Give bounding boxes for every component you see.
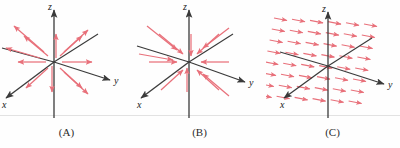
panel-b-diagram: z y x xyxy=(133,0,266,120)
vector-field-figure: z y x (A) xyxy=(0,0,400,148)
panel-c-diagram: z y x xyxy=(266,0,400,120)
x-axis-label: x xyxy=(136,99,142,110)
x-axis-label: x xyxy=(279,99,285,110)
panel-c-caption: (C) xyxy=(266,126,399,138)
x-axis xyxy=(141,62,189,98)
panel-a: z y x (A) xyxy=(0,0,133,148)
x-axis-negative xyxy=(54,34,98,62)
y-axis-label: y xyxy=(387,79,393,90)
y-axis-negative xyxy=(137,46,189,62)
x-axis-negative xyxy=(328,38,372,66)
panel-a-caption: (A) xyxy=(0,126,133,138)
field-arrows xyxy=(6,26,92,94)
panel-a-diagram: z y x xyxy=(0,0,133,120)
x-axis xyxy=(284,66,328,98)
z-axis-label: z xyxy=(182,1,187,12)
y-axis-label: y xyxy=(248,77,254,88)
panel-c: z y x (C) xyxy=(266,0,399,148)
y-axis xyxy=(189,62,245,82)
x-axis-label: x xyxy=(1,99,7,110)
x-axis-negative xyxy=(189,34,233,62)
z-axis-label: z xyxy=(47,1,52,12)
x-axis xyxy=(6,62,54,98)
panel-b: z y x (B) xyxy=(133,0,266,148)
field-arrows xyxy=(266,18,377,104)
z-axis-label: z xyxy=(321,3,326,14)
y-axis-label: y xyxy=(113,75,119,86)
panel-b-caption: (B) xyxy=(133,126,266,138)
